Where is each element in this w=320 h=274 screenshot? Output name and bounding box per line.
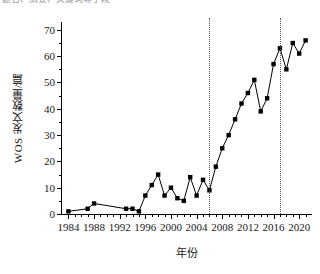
x-axis-tick — [184, 214, 185, 217]
x-axis-tick — [126, 214, 127, 217]
x-axis-tick — [248, 214, 249, 219]
y-axis-tick — [59, 43, 62, 44]
x-axis-tick — [120, 214, 121, 219]
y-axis-tick — [57, 56, 62, 57]
x-axis-tick — [203, 214, 204, 217]
x-axis-title: 年份 — [62, 244, 312, 260]
y-axis-tick — [59, 175, 62, 176]
data-point — [156, 172, 160, 176]
reference-line-2006 — [209, 18, 210, 214]
data-point — [297, 51, 301, 55]
data-point — [66, 209, 70, 213]
x-axis-tick — [133, 214, 134, 217]
data-point — [220, 146, 224, 150]
x-axis-tick — [100, 214, 101, 217]
data-point — [92, 201, 96, 205]
data-point — [246, 91, 250, 95]
x-axis-tick-label: 1992 — [109, 221, 131, 233]
x-axis-title-label: 年份 — [176, 247, 198, 259]
y-axis-tick-label: 30 — [44, 129, 55, 141]
data-point — [201, 178, 205, 182]
x-axis-tick — [267, 214, 268, 217]
y-axis-tick — [59, 148, 62, 149]
x-axis-tick — [209, 214, 210, 217]
data-point — [124, 207, 128, 211]
data-point — [303, 38, 307, 42]
data-point — [143, 193, 147, 197]
y-axis-tick — [59, 96, 62, 97]
x-axis-tick — [171, 214, 172, 219]
y-axis-tick-label: 60 — [44, 50, 55, 62]
data-point — [137, 209, 141, 213]
x-axis-tick-label: 2004 — [186, 221, 208, 233]
y-axis-tick — [57, 135, 62, 136]
series-line — [68, 40, 305, 211]
data-point — [175, 196, 179, 200]
x-axis-tick-label: 2012 — [237, 221, 259, 233]
x-axis-tick-label: 2020 — [288, 221, 310, 233]
x-axis-tick — [152, 214, 153, 217]
x-axis-tick — [293, 214, 294, 217]
x-axis-tick — [94, 214, 95, 219]
x-axis-tick — [113, 214, 114, 217]
data-point — [85, 207, 89, 211]
y-axis-tick-label: 20 — [44, 155, 55, 167]
x-axis-tick — [145, 214, 146, 219]
x-axis-tick-label: 1988 — [83, 221, 105, 233]
x-axis-tick — [107, 214, 108, 217]
x-axis-tick — [190, 214, 191, 217]
data-series-wos-publications — [62, 22, 312, 214]
data-point — [169, 186, 173, 190]
data-point — [265, 96, 269, 100]
y-axis-tick-label: 0 — [50, 208, 56, 220]
y-axis-tick — [57, 188, 62, 189]
data-point — [130, 207, 134, 211]
line-chart-figure: WOS 发文数量/篇 01020304050607019841988199219… — [0, 0, 320, 274]
x-axis-tick — [235, 214, 236, 217]
x-axis-tick — [81, 214, 82, 217]
x-axis-tick — [139, 214, 140, 217]
reference-line-2017 — [280, 18, 281, 214]
y-axis-tick-label: 10 — [44, 182, 55, 194]
data-point — [233, 117, 237, 121]
y-axis-tick — [57, 214, 62, 215]
x-axis-tick-label: 2008 — [211, 221, 233, 233]
x-axis-tick — [197, 214, 198, 219]
x-axis-tick — [158, 214, 159, 217]
data-point — [284, 67, 288, 71]
x-axis-tick — [261, 214, 262, 217]
y-axis-tick-label: 50 — [44, 76, 55, 88]
x-axis-tick — [254, 214, 255, 217]
y-axis-title: WOS 发文数量/篇 — [10, 22, 26, 214]
x-axis-tick — [165, 214, 166, 217]
y-axis-tick — [57, 30, 62, 31]
data-point — [150, 183, 154, 187]
data-point — [239, 101, 243, 105]
x-axis-tick — [286, 214, 287, 217]
y-axis-tick — [57, 82, 62, 83]
data-point — [162, 193, 166, 197]
x-axis-tick — [241, 214, 242, 217]
data-point — [194, 193, 198, 197]
y-axis-tick-label: 40 — [44, 103, 55, 115]
y-axis-tick — [59, 122, 62, 123]
x-axis-tick — [177, 214, 178, 217]
data-point — [188, 175, 192, 179]
y-axis-tick — [57, 161, 62, 162]
data-point — [182, 199, 186, 203]
data-point — [252, 78, 256, 82]
y-axis-tick — [57, 109, 62, 110]
plot-area: 0102030405060701984198819921996200020042… — [62, 22, 312, 214]
x-axis-tick — [88, 214, 89, 217]
x-axis-tick — [229, 214, 230, 217]
x-axis-tick-label: 1996 — [134, 221, 156, 233]
y-axis-title-label: WOS 发文数量/篇 — [10, 73, 26, 163]
x-axis-tick-label: 1984 — [57, 221, 79, 233]
data-point — [291, 41, 295, 45]
data-point — [214, 164, 218, 168]
x-axis-tick — [299, 214, 300, 219]
data-point — [259, 109, 263, 113]
x-axis-tick — [280, 214, 281, 217]
data-point — [226, 133, 230, 137]
x-axis-tick — [75, 214, 76, 217]
